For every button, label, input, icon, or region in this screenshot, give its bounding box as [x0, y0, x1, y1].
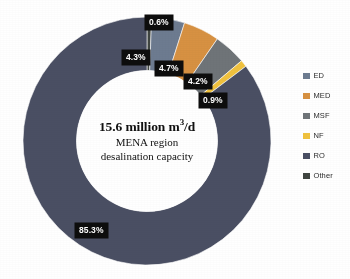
slice-label-other: 0.6% — [145, 15, 173, 30]
legend-item-msf[interactable]: MSF — [303, 106, 350, 126]
legend: EDMEDMSFNFROOther — [303, 66, 350, 186]
legend-label: MED — [314, 92, 331, 100]
legend-label: ED — [314, 72, 325, 80]
figure-root: 15.6 million m3/d MENA region desalinati… — [0, 0, 350, 279]
slice-label-nf: 0.9% — [199, 93, 227, 108]
legend-label: Other — [314, 172, 333, 180]
slice-label-ro: 85.3% — [75, 223, 108, 238]
donut-chart: 15.6 million m3/d MENA region desalinati… — [12, 8, 290, 274]
legend-label: NF — [314, 132, 324, 140]
slice-label-med: 4.7% — [155, 61, 183, 76]
legend-swatch-icon — [303, 153, 310, 160]
legend-swatch-icon — [303, 133, 310, 140]
legend-item-nf[interactable]: NF — [303, 126, 350, 146]
legend-item-med[interactable]: MED — [303, 86, 350, 106]
legend-item-other[interactable]: Other — [303, 166, 350, 186]
legend-swatch-icon — [303, 93, 310, 100]
legend-item-ro[interactable]: RO — [303, 146, 350, 166]
donut-hole — [77, 71, 218, 212]
legend-swatch-icon — [303, 173, 310, 180]
legend-swatch-icon — [303, 113, 310, 120]
legend-item-ed[interactable]: ED — [303, 66, 350, 86]
legend-swatch-icon — [303, 73, 310, 80]
slice-label-msf: 4.2% — [184, 74, 212, 89]
legend-label: RO — [314, 152, 325, 160]
legend-label: MSF — [314, 112, 330, 120]
slice-label-ed: 4.3% — [122, 50, 150, 65]
